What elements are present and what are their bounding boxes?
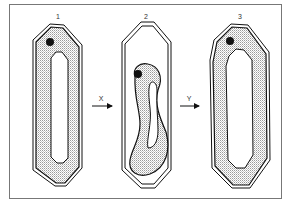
transition-label-x: X <box>99 95 104 102</box>
stage-label-1: 1 <box>56 13 60 20</box>
nucleus-icon <box>134 70 142 78</box>
cell-diagram <box>0 0 291 208</box>
transition-label-y: Y <box>187 95 192 102</box>
stage-label-3: 3 <box>238 13 242 20</box>
nucleus-icon <box>226 37 234 45</box>
cell-1 <box>33 24 82 186</box>
stage-label-2: 2 <box>144 13 148 20</box>
cell-2 <box>122 22 171 188</box>
nucleus-icon <box>46 38 54 46</box>
cell-3 <box>210 24 270 188</box>
